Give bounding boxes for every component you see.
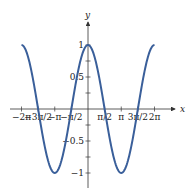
y-tick-label: −1 [71,168,84,178]
cosine-chart: −2π−3π/2−π−π/2π/2π3π/22π10.5−0.5−1 x y [0,0,189,196]
y-tick-label: 1 [78,40,84,50]
x-tick-label: π [118,112,124,122]
x-tick-label: 2π [149,112,161,122]
axes [10,22,175,188]
x-axis-label: x [180,104,185,114]
y-axis-label: y [84,10,91,20]
